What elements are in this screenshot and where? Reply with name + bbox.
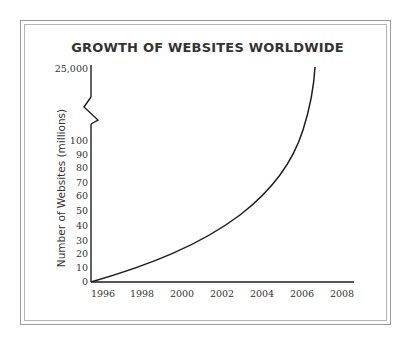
growth-curve-line [91,67,315,282]
x-tick-2002: 2002 [210,288,234,299]
y-axis-break-icon [84,97,98,124]
y-tick-10: 10 [76,262,88,273]
chart-plot-area: Number of Websites (millions) 25,000 100… [0,0,415,351]
y-tick-40: 40 [76,220,88,231]
y-tick-80: 80 [76,162,88,173]
y-tick-70: 70 [76,177,88,188]
y-tick-100: 100 [70,135,88,146]
y-tick-20: 20 [76,248,88,259]
y-tick-90: 90 [76,149,88,160]
y-tick-30: 30 [76,235,88,246]
y-axis-label: Number of Websites (millions) [55,109,67,267]
x-tick-1996: 1996 [91,288,115,299]
x-tick-2004: 2004 [250,288,274,299]
x-tick-2006: 2006 [290,288,314,299]
x-tick-2000: 2000 [170,288,194,299]
x-tick-2008: 2008 [330,288,354,299]
y-tick-0: 0 [82,276,88,287]
x-tick-1998: 1998 [130,288,154,299]
y-tick-25000: 25,000 [55,63,88,74]
y-tick-50: 50 [76,205,88,216]
y-tick-60: 60 [76,190,88,201]
